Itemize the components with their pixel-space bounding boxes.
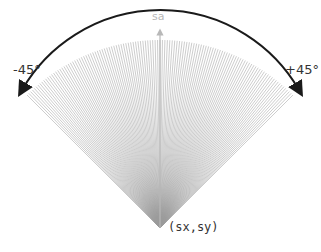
left-angle-label: -45° <box>13 62 41 77</box>
scan-ray <box>81 57 160 228</box>
scan-ray <box>160 80 276 228</box>
scan-ray <box>46 79 160 228</box>
scan-ray <box>160 60 245 228</box>
fan-rays <box>0 0 321 252</box>
scan-ray <box>160 79 274 228</box>
scan-ray <box>36 87 160 228</box>
right-angle-label: +45° <box>285 62 319 77</box>
scan-ray <box>160 87 284 228</box>
scan-ray <box>54 73 160 228</box>
axis-label: sa <box>152 10 164 23</box>
scan-ray <box>50 76 161 228</box>
scan-ray <box>75 60 160 228</box>
scan-ray <box>160 57 239 228</box>
scan-fan-diagram: sa -45° +45° (sx,sy) <box>0 0 321 252</box>
scan-ray <box>60 69 160 228</box>
scan-ray <box>160 73 266 228</box>
scan-ray <box>102 49 160 228</box>
scan-ray <box>44 80 160 228</box>
scan-ray <box>160 69 260 228</box>
scan-ray <box>160 49 218 228</box>
origin-label: (sx,sy) <box>168 220 219 234</box>
scan-ray <box>160 76 271 228</box>
